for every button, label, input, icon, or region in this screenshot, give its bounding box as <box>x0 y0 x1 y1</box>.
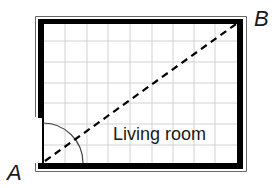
room-label: Living room <box>113 124 206 144</box>
right-wall <box>237 19 243 169</box>
left-wall <box>38 19 44 118</box>
point-a-label: A <box>5 160 22 185</box>
door <box>43 118 83 163</box>
bottom-wall <box>38 163 243 169</box>
top-wall <box>38 19 243 24</box>
floor-plan-diagram: Living room A B <box>0 0 279 188</box>
point-b-label: B <box>254 6 269 31</box>
